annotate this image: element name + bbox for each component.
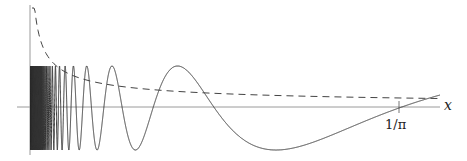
tick-label-1-over-pi: 1/π	[385, 117, 406, 132]
sine-curve	[31, 66, 440, 150]
dashed-envelope-curve	[32, 8, 440, 99]
plot-canvas	[0, 0, 467, 161]
x-axis-label: x	[444, 97, 452, 113]
